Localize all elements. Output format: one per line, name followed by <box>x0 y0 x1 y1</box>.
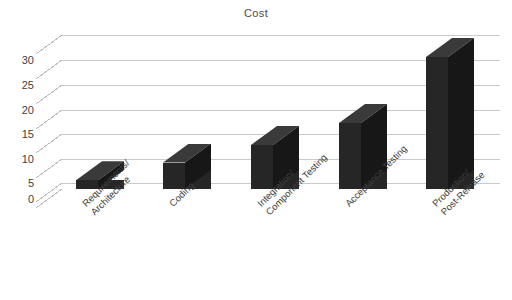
plot-area: 30 25 20 15 10 5 0 Requirements/ Archite… <box>0 0 512 300</box>
cost-bar-chart: Cost 30 25 <box>0 0 512 300</box>
bar-series <box>0 0 512 300</box>
